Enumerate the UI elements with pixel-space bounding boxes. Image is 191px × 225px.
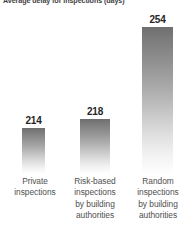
category-label-risk-based-inspections: Risk-based inspections by building autho… <box>62 176 128 222</box>
category-label-line: inspections <box>125 187 191 198</box>
category-label-line: by building <box>62 199 128 210</box>
category-label-line: by building <box>125 199 191 210</box>
plot-area: 214 218 254 <box>0 0 191 174</box>
category-label-line: Random <box>125 176 191 187</box>
bar-group-risk-based-inspections: 218 <box>80 0 110 174</box>
bar-value-label: 254 <box>149 14 165 25</box>
category-label-line: authorities <box>62 210 128 221</box>
bar-random-inspections <box>142 27 173 174</box>
category-label-line: Risk-based <box>62 176 128 187</box>
bar-group-random-inspections: 254 <box>142 0 173 174</box>
bar-group-private-inspections: 214 <box>22 0 45 174</box>
category-label-line: Private <box>0 176 70 187</box>
bar-private-inspections <box>22 128 45 174</box>
category-label-line: inspections <box>0 187 70 198</box>
bar-value-label: 214 <box>25 115 41 126</box>
category-label-line: inspections <box>62 187 128 198</box>
category-label-random-inspections: Random inspections by building authoriti… <box>125 176 191 222</box>
bar-chart: Average delay for inspections (days) 214… <box>0 0 191 225</box>
category-axis: Private inspections Risk-based inspectio… <box>0 176 191 225</box>
bar-risk-based-inspections <box>80 119 110 174</box>
bar-value-label: 218 <box>87 106 103 117</box>
category-label-private-inspections: Private inspections <box>0 176 70 199</box>
category-label-line: authorities <box>125 210 191 221</box>
